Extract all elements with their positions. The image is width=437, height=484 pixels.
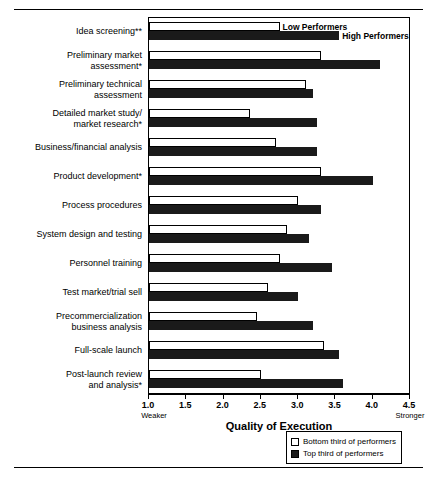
chart-row: Detailed market study/ market research* (0, 104, 437, 133)
x-axis-tick (148, 394, 149, 399)
bar-top-third (149, 176, 373, 185)
chart-legend: Bottom third of performersTop third of p… (286, 431, 402, 464)
bar-top-third (149, 60, 380, 69)
category-label: Personnel training (0, 258, 142, 269)
category-label: Process procedures (0, 200, 142, 211)
callout-low-performers: Low Performers (283, 22, 348, 32)
legend-label: Top third of performers (303, 448, 383, 459)
chart-row: System design and testing (0, 220, 437, 249)
x-axis-tick-label: 3.0 (282, 400, 312, 410)
bar-top-third (149, 147, 317, 156)
legend-item: Top third of performers (291, 448, 396, 459)
category-label: Post-launch review and analysis* (0, 369, 142, 390)
chart-row: Full-scale launch (0, 336, 437, 365)
x-axis-tick-label: 4.0 (357, 400, 387, 410)
chart-row: Product development* (0, 162, 437, 191)
top-divider-rule (14, 9, 423, 10)
x-axis-tick-label: 4.5 (394, 400, 424, 410)
chart-row: Personnel training (0, 249, 437, 278)
bar-top-third (149, 350, 339, 359)
bar-bottom-third (149, 109, 250, 118)
chart-row: Idea screening**Low PerformersHigh Perfo… (0, 17, 437, 46)
category-label: Precommercialization business analysis (0, 311, 142, 332)
x-axis-tick-label: 1.0 (133, 400, 163, 410)
x-axis-tick-label: 2.5 (245, 400, 275, 410)
legend-item: Bottom third of performers (291, 436, 396, 447)
x-axis-tick (185, 394, 186, 399)
bar-top-third (149, 205, 321, 214)
bar-top-third (149, 89, 313, 98)
category-label: Detailed market study/ market research* (0, 108, 142, 129)
bar-bottom-third (149, 254, 280, 263)
bar-rows-container: Idea screening**Low PerformersHigh Perfo… (0, 17, 437, 394)
chart-row: Post-launch review and analysis* (0, 365, 437, 394)
x-axis-tick (334, 394, 335, 399)
x-axis-tick (223, 394, 224, 399)
bar-bottom-third (149, 225, 287, 234)
bar-bottom-third (149, 283, 268, 292)
bar-bottom-third (149, 80, 306, 89)
legend-swatch-icon (291, 438, 299, 446)
category-label: Preliminary technical assessment (0, 79, 142, 100)
category-label: Test market/trial sell (0, 287, 142, 298)
category-label: Idea screening** (0, 26, 142, 37)
bar-bottom-third (149, 167, 321, 176)
chart-row: Process procedures (0, 191, 437, 220)
chart-row: Precommercialization business analysis (0, 307, 437, 336)
bar-bottom-third (149, 341, 324, 350)
bar-bottom-third (149, 22, 280, 31)
bar-top-third (149, 379, 343, 388)
bar-top-third (149, 234, 309, 243)
legend-label: Bottom third of performers (303, 436, 396, 447)
bar-top-third (149, 263, 332, 272)
category-label: Product development* (0, 171, 142, 182)
x-axis-tick (260, 394, 261, 399)
bar-bottom-third (149, 138, 276, 147)
x-axis-tick (409, 394, 410, 399)
x-axis-tick-label: 3.5 (319, 400, 349, 410)
x-axis-tick-label: 1.5 (170, 400, 200, 410)
x-axis-tick (297, 394, 298, 399)
category-label: Business/financial analysis (0, 142, 142, 153)
bar-bottom-third (149, 312, 257, 321)
x-axis-tick (372, 394, 373, 399)
bar-top-third (149, 31, 339, 40)
callout-high-performers: High Performers (342, 31, 409, 41)
category-label: Full-scale launch (0, 345, 142, 356)
bar-bottom-third (149, 370, 261, 379)
bar-top-third (149, 321, 313, 330)
category-label: Preliminary market assessment* (0, 50, 142, 71)
chart-row: Test market/trial sell (0, 278, 437, 307)
legend-swatch-icon (291, 450, 299, 458)
x-axis-tick-label: 2.0 (208, 400, 238, 410)
bar-top-third (149, 118, 317, 127)
bar-bottom-third (149, 51, 321, 60)
x-axis-line (148, 394, 410, 395)
chart-row: Preliminary technical assessment (0, 75, 437, 104)
axis-weaker-label: Weaker (134, 411, 174, 420)
axis-stronger-label: Stronger (388, 411, 432, 420)
bottom-divider-rule (14, 467, 423, 468)
chart-row: Preliminary market assessment* (0, 46, 437, 75)
bar-top-third (149, 292, 298, 301)
bar-bottom-third (149, 196, 298, 205)
figure-container: Idea screening**Low PerformersHigh Perfo… (0, 0, 437, 484)
category-label: System design and testing (0, 229, 142, 240)
chart-row: Business/financial analysis (0, 133, 437, 162)
